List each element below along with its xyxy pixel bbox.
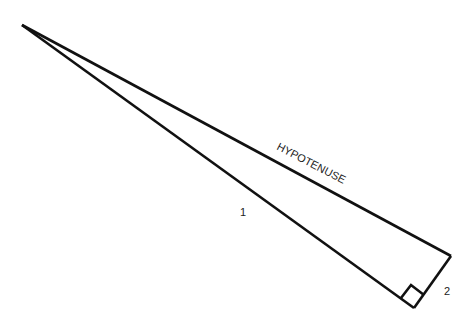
- leg-1-label: 1: [240, 206, 246, 218]
- leg-1-line: [22, 25, 414, 308]
- right-angle-marker: [401, 285, 424, 298]
- hypotenuse-label: HYPOTENUSE: [275, 140, 348, 186]
- leg-2-label: 2: [444, 285, 450, 297]
- hypotenuse-line: [22, 25, 451, 256]
- triangle: [22, 25, 451, 308]
- leg-2-line: [414, 256, 451, 308]
- triangle-diagram: HYPOTENUSE 1 2: [0, 0, 473, 323]
